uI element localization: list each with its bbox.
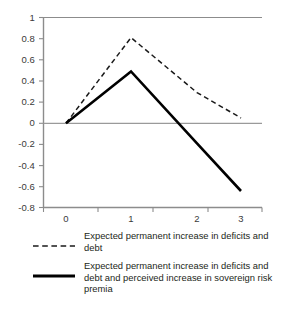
y-tick-label-0_8: 0.8	[9, 34, 35, 44]
x-tick-label-2: 2	[185, 214, 209, 224]
legend-label-solid: Expected permanent increase in deficits …	[84, 260, 287, 295]
y-tick-label-0_4: 0.4	[9, 76, 35, 86]
dashed-line-swatch-icon	[33, 243, 77, 249]
y-tick-label-0: 0	[9, 118, 35, 128]
series-dashed-line	[66, 38, 241, 124]
plot-area: 1 0.8 0.6 0.4 0.2 0 -0.2 -0.4 -0.6 -0.8 …	[0, 0, 287, 228]
solid-line-key	[33, 260, 77, 283]
dashed-line-key	[33, 230, 77, 253]
y-tick-label-neg0_4: -0.4	[9, 161, 35, 171]
legend-label-dashed: Expected permanent increase in deficits …	[84, 230, 287, 253]
x-tick-label-3: 3	[229, 214, 253, 224]
y-tick-label-0_6: 0.6	[9, 55, 35, 65]
x-tick-label-0: 0	[54, 214, 78, 224]
x-tick-label-1: 1	[119, 214, 143, 224]
chart-legend: Expected permanent increase in deficits …	[0, 230, 287, 302]
y-tick-label-neg0_6: -0.6	[9, 182, 35, 192]
chart-figure: 1 0.8 0.6 0.4 0.2 0 -0.2 -0.4 -0.6 -0.8 …	[0, 0, 287, 312]
y-tick-label-neg0_8: -0.8	[9, 203, 35, 213]
chart-canvas	[0, 0, 287, 228]
solid-line-swatch-icon	[33, 273, 77, 279]
y-tick-label-0_2: 0.2	[9, 97, 35, 107]
y-tick-label-1: 1	[9, 13, 35, 23]
legend-entry-dashed: Expected permanent increase in deficits …	[0, 230, 287, 253]
y-tick-label-neg0_2: -0.2	[9, 139, 35, 149]
legend-entry-solid: Expected permanent increase in deficits …	[0, 260, 287, 295]
